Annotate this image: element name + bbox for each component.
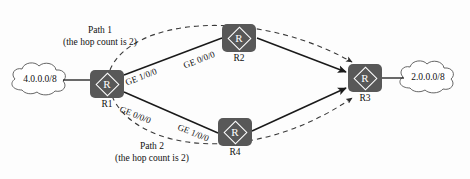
router-r3[interactable]: R bbox=[348, 64, 382, 92]
network-label-left: 4.0.0.0/8 bbox=[14, 74, 66, 84]
path-2-annotation: Path 2 (the hop count is 2) bbox=[78, 140, 226, 164]
router-label-r3: R3 bbox=[348, 93, 382, 103]
link-r2-r3 bbox=[257, 38, 346, 72]
router-glyph: R bbox=[90, 70, 124, 98]
network-topology-diagram: R R1 R R2 R R3 R R4 4.0.0.0/8 2.0.0.0/8 … bbox=[0, 0, 470, 179]
router-glyph: R bbox=[348, 64, 382, 92]
link-r4-r3 bbox=[252, 88, 346, 131]
network-label-right: 2.0.0.0/8 bbox=[402, 72, 454, 82]
router-r2[interactable]: R bbox=[222, 24, 256, 52]
path-2-detail: (the hop count is 2) bbox=[78, 152, 226, 164]
router-glyph: R bbox=[222, 24, 256, 52]
path-1-annotation: Path 1 (the hop count is 2) bbox=[26, 24, 174, 48]
path-1-detail: (the hop count is 2) bbox=[26, 36, 174, 48]
path-1-name: Path 1 bbox=[26, 24, 174, 36]
path-2-name: Path 2 bbox=[78, 140, 226, 152]
router-label-r1: R1 bbox=[90, 99, 124, 109]
router-label-r2: R2 bbox=[222, 53, 256, 63]
router-r1[interactable]: R bbox=[90, 70, 124, 98]
